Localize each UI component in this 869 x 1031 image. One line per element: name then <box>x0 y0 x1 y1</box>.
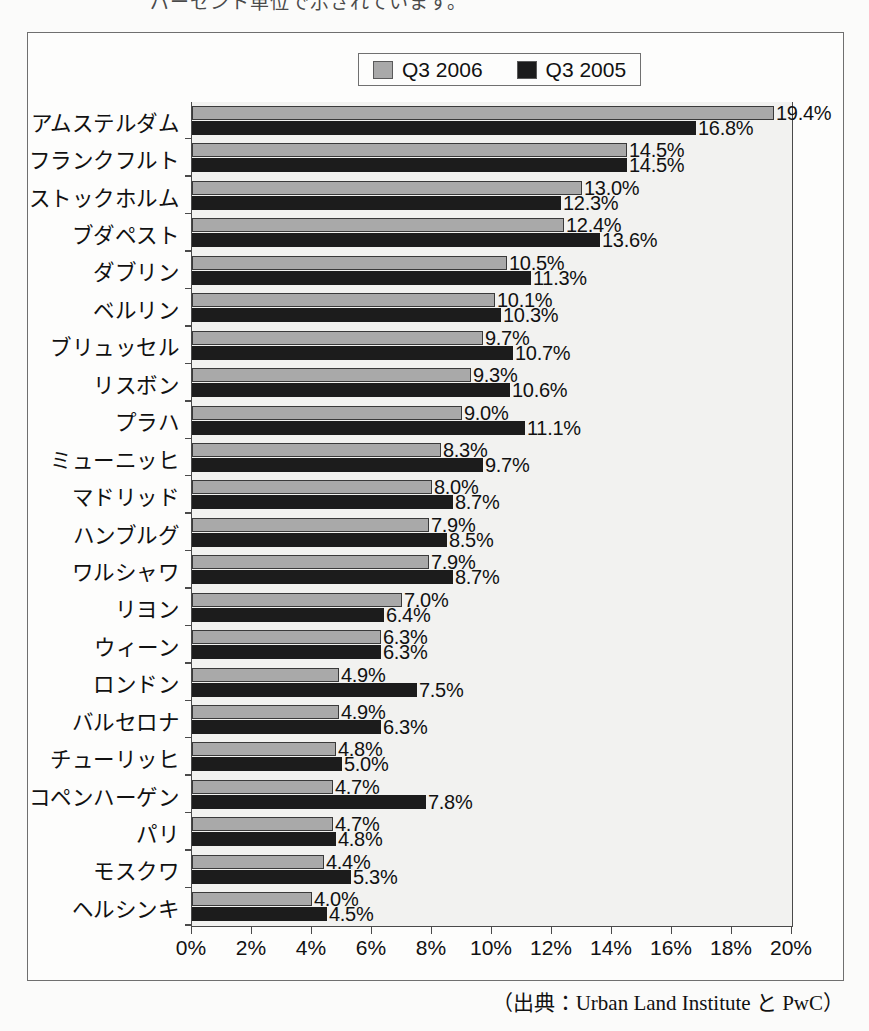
category-label: プラハ <box>115 405 180 436</box>
bar-value-label: 13.6% <box>602 229 657 252</box>
bar-group: 4.8%5.0% <box>192 740 792 773</box>
bar-2006: 6.3% <box>192 630 381 644</box>
y-axis-tick <box>185 550 192 551</box>
bar-value-label: 8.7% <box>455 566 499 589</box>
chart-row: アムステルダム19.4%16.8% <box>192 102 792 139</box>
category-label: マドリッド <box>72 480 180 511</box>
plot-area: アムステルダム19.4%16.8%フランクフルト14.5%14.5%ストックホル… <box>191 102 793 927</box>
cropped-body-text: パーセント単位で示されています。 <box>150 0 467 12</box>
chart-row: バルセロナ4.9%6.3% <box>192 701 792 738</box>
chart-row: モスクワ4.4%5.3% <box>192 851 792 888</box>
bar-2006: 9.0% <box>192 406 462 420</box>
bar-2006: 8.0% <box>192 480 432 494</box>
x-axis-tick <box>371 926 372 934</box>
bar-2005: 7.5% <box>192 683 417 697</box>
chart-row: ロンドン4.9%7.5% <box>192 664 792 701</box>
bar-2005: 10.7% <box>192 346 513 360</box>
x-axis-tick-label: 6% <box>356 936 386 960</box>
bar-group: 4.4%5.3% <box>192 853 792 886</box>
bar-2006: 4.7% <box>192 817 333 831</box>
category-label: コペンハーゲン <box>29 779 180 810</box>
bar-value-label: 19.4% <box>776 102 831 125</box>
bar-value-label: 6.3% <box>383 641 427 664</box>
x-axis-tick <box>791 926 792 934</box>
category-label: ロンドン <box>93 667 179 698</box>
y-axis-tick <box>185 288 192 289</box>
legend-swatch-2005 <box>517 61 537 79</box>
x-axis-tick <box>551 926 552 934</box>
bar-2005: 7.8% <box>192 795 426 809</box>
legend-entry-2005: Q3 2005 <box>517 59 627 80</box>
bar-2005: 6.3% <box>192 720 381 734</box>
chart-row: リヨン7.0%6.4% <box>192 589 792 626</box>
bar-group: 4.9%6.3% <box>192 703 792 736</box>
x-axis-tick-label: 14% <box>590 936 632 960</box>
x-axis-tick-label: 8% <box>416 936 446 960</box>
bar-2005: 8.7% <box>192 570 453 584</box>
bar-2006: 10.1% <box>192 293 495 307</box>
bar-value-label: 4.5% <box>329 903 373 926</box>
bar-value-label: 5.0% <box>344 753 388 776</box>
bar-value-label: 6.3% <box>383 716 427 739</box>
y-axis-tick <box>185 138 192 139</box>
category-label: ブダペスト <box>72 218 180 249</box>
bar-value-label: 14.5% <box>629 154 684 177</box>
y-axis-tick <box>185 737 192 738</box>
bar-group: 9.7%10.7% <box>192 329 792 362</box>
bar-group: 7.9%8.5% <box>192 516 792 549</box>
bar-2005: 14.5% <box>192 158 627 172</box>
bar-value-label: 10.7% <box>515 341 570 364</box>
chart-row: ダブリン10.5%11.3% <box>192 252 792 289</box>
bar-2005: 4.5% <box>192 907 327 921</box>
bar-2006: 7.9% <box>192 518 429 532</box>
x-axis-tick <box>491 926 492 934</box>
chart-row: ハンブルグ7.9%8.5% <box>192 514 792 551</box>
category-label: フランクフルト <box>29 143 180 174</box>
bar-value-label: 10.6% <box>512 379 567 402</box>
bar-2005: 6.4% <box>192 608 384 622</box>
bar-2005: 9.7% <box>192 458 483 472</box>
y-axis-tick <box>185 625 192 626</box>
y-axis-tick <box>185 700 192 701</box>
chart-row: ミューニッヒ8.3%9.7% <box>192 439 792 476</box>
chart-row: ウィーン6.3%6.3% <box>192 626 792 663</box>
bar-group: 10.5%11.3% <box>192 254 792 287</box>
bar-value-label: 6.4% <box>386 603 430 626</box>
x-axis-tick-label: 20% <box>770 936 812 960</box>
bar-2005: 8.5% <box>192 533 447 547</box>
category-label: ハンブルグ <box>73 517 180 548</box>
bar-2006: 10.5% <box>192 256 507 270</box>
x-axis-tick-label: 16% <box>650 936 692 960</box>
y-axis-tick <box>185 325 192 326</box>
bar-2006: 9.7% <box>192 331 483 345</box>
bar-group: 8.0%8.7% <box>192 478 792 511</box>
bar-value-label: 5.3% <box>353 865 397 888</box>
y-axis-tick <box>185 849 192 850</box>
category-label: ワルシャワ <box>72 554 180 585</box>
bar-group: 4.0%4.5% <box>192 890 792 923</box>
category-label: チューリッヒ <box>50 742 179 773</box>
chart-row: コペンハーゲン4.7%7.8% <box>192 776 792 813</box>
category-label: モスクワ <box>93 854 179 885</box>
bar-2006: 4.0% <box>192 892 312 906</box>
bar-2005: 16.8% <box>192 121 696 135</box>
x-axis-tick <box>431 926 432 934</box>
bar-2005: 6.3% <box>192 645 381 659</box>
bar-group: 12.4%13.6% <box>192 216 792 249</box>
chart-row: ストックホルム13.0%12.3% <box>192 177 792 214</box>
y-axis-tick <box>185 363 192 364</box>
chart-row: ブリュッセル9.7%10.7% <box>192 327 792 364</box>
y-axis-tick <box>185 475 192 476</box>
bar-2006: 4.4% <box>192 855 324 869</box>
bar-value-label: 11.1% <box>527 416 581 439</box>
y-axis-tick <box>185 512 192 513</box>
chart-row: ヘルシンキ4.0%4.5% <box>192 888 792 925</box>
bar-2006: 7.0% <box>192 593 402 607</box>
bar-2005: 8.7% <box>192 495 453 509</box>
legend-entry-2006: Q3 2006 <box>373 59 483 80</box>
bar-2006: 13.0% <box>192 181 582 195</box>
x-axis-tick-label: 18% <box>710 936 752 960</box>
chart-row: パリ4.7%4.8% <box>192 813 792 850</box>
bar-2006: 4.9% <box>192 668 339 682</box>
y-axis-tick <box>185 175 192 176</box>
